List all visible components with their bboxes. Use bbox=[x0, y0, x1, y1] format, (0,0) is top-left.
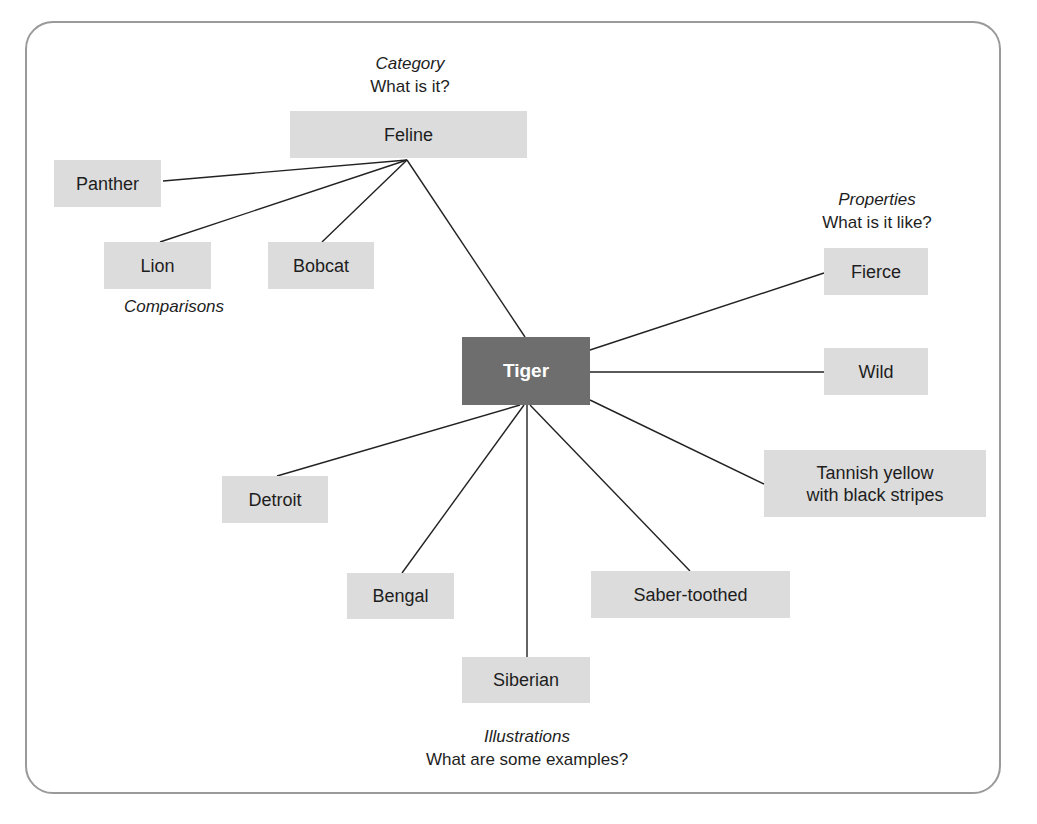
properties-heading: Properties bbox=[822, 188, 932, 211]
node-lion: Lion bbox=[104, 242, 211, 289]
node-wild: Wild bbox=[824, 348, 928, 395]
node-bengal: Bengal bbox=[347, 573, 454, 619]
node-panther: Panther bbox=[54, 160, 161, 207]
category-question: What is it? bbox=[370, 75, 449, 98]
edge-feline-lion bbox=[160, 160, 407, 242]
node-tannish-line2: with black stripes bbox=[806, 484, 943, 506]
node-feline: Feline bbox=[290, 111, 527, 158]
node-siberian: Siberian bbox=[462, 657, 590, 703]
edge-tiger-saber bbox=[530, 405, 690, 571]
edge-feline-panther bbox=[163, 160, 407, 181]
node-tannish-line1: Tannish yellow bbox=[816, 462, 933, 484]
illustrations-question: What are some examples? bbox=[426, 748, 628, 771]
node-saber-toothed: Saber-toothed bbox=[591, 571, 790, 618]
edge-tiger-bengal bbox=[402, 405, 524, 573]
edge-tiger-tannish bbox=[590, 400, 764, 484]
category-label: Category What is it? bbox=[370, 52, 449, 98]
node-bobcat: Bobcat bbox=[268, 242, 374, 289]
edge-feline-bobcat bbox=[322, 160, 407, 242]
node-tannish: Tannish yellow with black stripes bbox=[764, 450, 986, 517]
node-tiger: Tiger bbox=[462, 337, 590, 405]
edge-tiger-fierce bbox=[590, 273, 824, 350]
properties-label: Properties What is it like? bbox=[822, 188, 932, 234]
illustrations-label: Illustrations What are some examples? bbox=[426, 725, 628, 771]
illustrations-heading: Illustrations bbox=[426, 725, 628, 748]
category-heading: Category bbox=[370, 52, 449, 75]
edge-feline-tiger bbox=[407, 160, 525, 337]
edge-tiger-detroit bbox=[277, 405, 520, 476]
node-detroit: Detroit bbox=[222, 476, 328, 523]
comparisons-heading: Comparisons bbox=[124, 295, 224, 318]
properties-question: What is it like? bbox=[822, 211, 932, 234]
comparisons-label: Comparisons bbox=[124, 295, 224, 318]
node-fierce: Fierce bbox=[824, 248, 928, 295]
